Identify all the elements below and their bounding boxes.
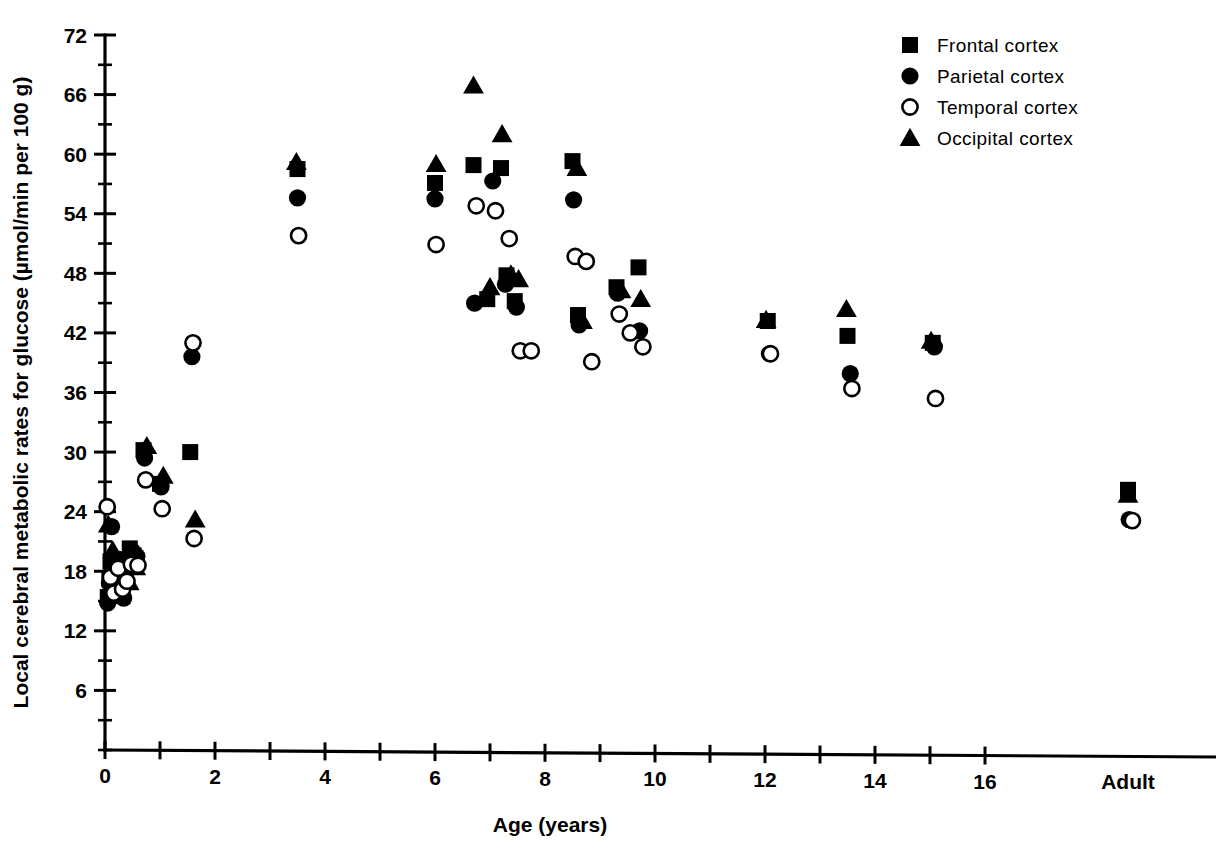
datapoint-open-circle-icon xyxy=(155,501,170,516)
datapoint-open-circle-icon xyxy=(130,558,145,573)
y-tick-label: 60 xyxy=(64,143,87,166)
x-tick-label: 4 xyxy=(319,765,331,788)
datapoint-filled-circle-icon xyxy=(484,172,501,189)
legend-item-temporal-cortex: Temporal cortex xyxy=(902,97,1078,118)
datapoint-open-circle-icon xyxy=(623,325,638,340)
datapoint-filled-triangle-icon xyxy=(463,75,484,93)
series-temporal-cortex xyxy=(100,198,1140,600)
x-tick-label: 6 xyxy=(429,766,441,789)
datapoint-open-circle-icon xyxy=(928,391,943,406)
datapoint-filled-triangle-icon xyxy=(426,154,447,172)
y-tick-label: 54 xyxy=(64,202,88,225)
x-tick-label: 10 xyxy=(643,767,666,790)
legend: Frontal cortexParietal cortexTemporal co… xyxy=(900,35,1079,149)
legend-filled-circle-icon xyxy=(901,67,918,84)
datapoint-filled-circle-icon xyxy=(466,295,483,312)
legend-item-parietal-cortex: Parietal cortex xyxy=(901,66,1064,87)
x-axis-line xyxy=(105,750,1216,757)
y-tick-label: 66 xyxy=(64,83,87,106)
series-frontal-cortex xyxy=(100,153,1136,605)
datapoint-open-circle-icon xyxy=(119,574,134,589)
scatter-plot-figure: 726660544842363024181260246810121416Adul… xyxy=(0,0,1216,857)
datapoint-open-circle-icon xyxy=(1125,513,1140,528)
datapoint-filled-square-icon xyxy=(182,444,198,460)
datapoint-filled-square-icon xyxy=(427,175,443,191)
datapoint-filled-circle-icon xyxy=(426,190,443,207)
legend-item-occipital-cortex: Occipital cortex xyxy=(900,128,1074,149)
datapoint-filled-triangle-icon xyxy=(153,466,174,484)
x-axis-title: Age (years) xyxy=(493,813,607,836)
datapoint-filled-circle-icon xyxy=(565,191,582,208)
x-tick-label: 12 xyxy=(753,768,776,791)
datapoint-open-circle-icon xyxy=(584,354,599,369)
datapoint-filled-circle-icon xyxy=(842,365,859,382)
y-tick-label: 18 xyxy=(64,560,88,583)
datapoint-filled-triangle-icon xyxy=(492,124,513,142)
x-tick-label: 16 xyxy=(973,770,996,793)
datapoint-filled-circle-icon xyxy=(289,189,306,206)
datapoint-open-circle-icon xyxy=(524,343,539,358)
x-tick-label: 0 xyxy=(99,764,111,787)
datapoint-open-circle-icon xyxy=(469,198,484,213)
x-tick-label: 14 xyxy=(863,769,887,792)
axis-labels-layer: Local cerebral metabolic rates for gluco… xyxy=(9,77,607,836)
datapoint-open-circle-icon xyxy=(502,231,517,246)
y-tick-label: 30 xyxy=(64,441,87,464)
legend-item-label: Temporal cortex xyxy=(937,97,1078,118)
legend-filled-square-icon xyxy=(902,37,918,53)
datapoint-filled-triangle-icon xyxy=(185,509,206,527)
datapoint-filled-triangle-icon xyxy=(286,152,307,170)
x-tick-label: 8 xyxy=(539,767,551,790)
y-tick-label: 72 xyxy=(64,24,87,47)
datapoint-open-circle-icon xyxy=(138,472,153,487)
x-tick-label-adult: Adult xyxy=(1101,770,1155,793)
legend-item-label: Parietal cortex xyxy=(937,66,1065,87)
y-tick-label: 42 xyxy=(64,321,87,344)
datapoint-open-circle-icon xyxy=(185,335,200,350)
y-tick-label: 12 xyxy=(64,619,87,642)
datapoint-open-circle-icon xyxy=(291,228,306,243)
datapoint-filled-square-icon xyxy=(631,259,647,275)
legend-item-label: Occipital cortex xyxy=(937,128,1073,149)
y-tick-label: 24 xyxy=(64,500,88,523)
legend-open-circle-icon xyxy=(902,99,917,114)
datapoint-open-circle-icon xyxy=(635,339,650,354)
data-points-layer xyxy=(98,75,1140,611)
y-tick-label: 48 xyxy=(64,262,88,285)
legend-item-label: Frontal cortex xyxy=(937,35,1059,56)
y-tick-label: 6 xyxy=(75,679,87,702)
datapoint-open-circle-icon xyxy=(579,254,594,269)
y-axis-title: Local cerebral metabolic rates for gluco… xyxy=(9,77,32,709)
legend-filled-triangle-icon xyxy=(900,128,921,146)
datapoint-open-circle-icon xyxy=(612,306,627,321)
plot-canvas: 726660544842363024181260246810121416Adul… xyxy=(0,0,1216,857)
datapoint-open-circle-icon xyxy=(763,346,778,361)
datapoint-filled-square-icon xyxy=(840,328,856,344)
datapoint-open-circle-icon xyxy=(100,499,115,514)
x-axis: 0246810121416Adult xyxy=(99,741,1216,793)
series-parietal-cortex xyxy=(99,172,1138,611)
datapoint-filled-circle-icon xyxy=(508,298,525,315)
datapoint-filled-triangle-icon xyxy=(836,299,857,317)
datapoint-filled-triangle-icon xyxy=(630,289,651,307)
datapoint-open-circle-icon xyxy=(844,381,859,396)
datapoint-open-circle-icon xyxy=(187,531,202,546)
y-axis: 72666054484236302418126 xyxy=(64,24,116,751)
x-tick-label: 2 xyxy=(209,765,221,788)
datapoint-open-circle-icon xyxy=(429,237,444,252)
datapoint-filled-square-icon xyxy=(466,157,482,173)
legend-item-frontal-cortex: Frontal cortex xyxy=(902,35,1059,56)
series-occipital-cortex xyxy=(98,75,1139,604)
y-tick-label: 36 xyxy=(64,381,87,404)
datapoint-open-circle-icon xyxy=(488,203,503,218)
